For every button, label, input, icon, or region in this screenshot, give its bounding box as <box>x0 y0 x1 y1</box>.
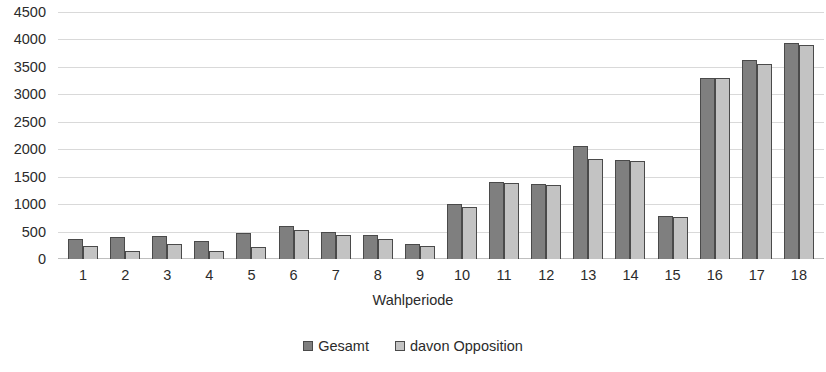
x-axis-tick-label: 13 <box>567 262 609 288</box>
x-axis-tick-label: 2 <box>104 262 146 288</box>
legend-label: davon Opposition <box>410 338 523 354</box>
bar <box>68 239 83 259</box>
y-axis-tick-label: 0 <box>38 252 46 267</box>
bar <box>336 235 351 259</box>
x-axis-tick-label: 18 <box>778 262 820 288</box>
legend-swatch-icon <box>395 341 405 351</box>
bar <box>489 182 504 259</box>
y-axis-tick-label: 3500 <box>14 60 46 75</box>
bar <box>152 236 167 259</box>
bar-group <box>441 12 483 259</box>
bar-group <box>188 12 230 259</box>
bar-group <box>778 12 820 259</box>
bar-group <box>567 12 609 259</box>
bar-groups <box>58 12 824 259</box>
y-axis-tick-label: 1000 <box>14 197 46 212</box>
bar <box>236 233 251 259</box>
x-axis-tick-label: 6 <box>273 262 315 288</box>
bar <box>757 64 772 259</box>
y-axis: 050010001500200025003000350040004500 <box>0 0 52 271</box>
plot-area <box>58 12 824 259</box>
bar-group <box>483 12 525 259</box>
bar-group <box>315 12 357 259</box>
x-axis-tick-label: 16 <box>694 262 736 288</box>
x-axis-tick-label: 5 <box>230 262 272 288</box>
x-axis-tick-label: 7 <box>315 262 357 288</box>
bar-group <box>694 12 736 259</box>
x-axis-title: Wahlperiode <box>0 292 826 308</box>
bar-group <box>146 12 188 259</box>
legend-label: Gesamt <box>318 338 369 354</box>
x-axis-tick-label: 14 <box>609 262 651 288</box>
y-axis-tick-label: 3000 <box>14 87 46 102</box>
bar <box>209 251 224 259</box>
bar-group <box>609 12 651 259</box>
bar-group <box>399 12 441 259</box>
x-axis-tick-label: 10 <box>441 262 483 288</box>
bar-group <box>273 12 315 259</box>
bar <box>194 241 209 259</box>
bar-group <box>104 12 146 259</box>
bar <box>447 204 462 259</box>
bar <box>588 159 603 259</box>
bar <box>251 247 266 259</box>
x-axis-tick-label: 9 <box>399 262 441 288</box>
x-axis-tick-label: 12 <box>525 262 567 288</box>
bar-group <box>62 12 104 259</box>
bar <box>700 78 715 259</box>
bar <box>110 237 125 260</box>
bar <box>294 230 309 259</box>
bar-group <box>357 12 399 259</box>
y-axis-tick-label: 4500 <box>14 5 46 20</box>
bar-group <box>652 12 694 259</box>
chart-legend: Gesamtdavon Opposition <box>0 338 826 354</box>
x-axis-tick-label: 1 <box>62 262 104 288</box>
bar <box>405 244 420 259</box>
bar <box>615 160 630 259</box>
bar <box>742 60 757 259</box>
bar <box>630 161 645 259</box>
bar <box>462 207 477 259</box>
bar <box>784 43 799 259</box>
x-axis-tick-label: 17 <box>736 262 778 288</box>
legend-item: davon Opposition <box>395 338 523 354</box>
bar <box>83 246 98 259</box>
bar <box>715 78 730 259</box>
x-axis-tick-label: 11 <box>483 262 525 288</box>
bar <box>546 185 561 259</box>
bar <box>363 235 378 259</box>
x-axis-tick-label: 4 <box>188 262 230 288</box>
bar <box>504 183 519 259</box>
y-axis-tick-label: 500 <box>22 224 46 239</box>
bar <box>673 217 688 259</box>
x-axis-tick-label: 3 <box>146 262 188 288</box>
bar <box>321 232 336 259</box>
bar-group <box>230 12 272 259</box>
bar <box>799 45 814 259</box>
y-axis-tick-label: 2500 <box>14 115 46 130</box>
bar-group <box>525 12 567 259</box>
x-axis-ticks: 123456789101112131415161718 <box>58 262 824 288</box>
bar-group <box>736 12 778 259</box>
bar <box>125 251 140 259</box>
bar-chart: 050010001500200025003000350040004500 123… <box>0 0 826 372</box>
y-axis-tick-label: 2000 <box>14 142 46 157</box>
bar <box>420 246 435 259</box>
y-axis-tick-label: 1500 <box>14 169 46 184</box>
bar <box>167 244 182 259</box>
x-axis-tick-label: 15 <box>652 262 694 288</box>
bar <box>658 216 673 259</box>
x-axis-tick-label: 8 <box>357 262 399 288</box>
bar <box>531 184 546 259</box>
y-axis-tick-label: 4000 <box>14 32 46 47</box>
legend-swatch-icon <box>303 341 313 351</box>
bar <box>573 146 588 259</box>
bar <box>378 239 393 259</box>
bar <box>279 226 294 259</box>
legend-item: Gesamt <box>303 338 369 354</box>
